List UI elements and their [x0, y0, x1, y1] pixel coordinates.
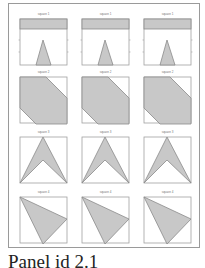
panel-1-3: square 1: [143, 12, 193, 65]
shape-grid: square 1square 1square 1square 2square 2…: [0, 0, 205, 250]
panel-label: square 2: [38, 70, 50, 74]
panel-3-3: square 3: [144, 130, 191, 183]
shape-polygon: [36, 40, 51, 65]
panel-label: square 2: [162, 70, 174, 74]
shape-polygon: [144, 77, 191, 124]
panel-1-2: square 1: [81, 12, 131, 65]
shape-band: [20, 19, 67, 29]
panel-label: square 4: [100, 190, 112, 194]
panel-2-2: square 2: [82, 70, 129, 124]
panel-label: square 3: [38, 130, 50, 134]
panel-3-1: square 3: [20, 130, 67, 183]
shape-polygon: [82, 137, 129, 183]
panel-label: square 1: [38, 12, 50, 16]
panel-2-3: square 2: [144, 70, 191, 124]
panel-1-1: square 1: [19, 12, 69, 65]
panel-label: square 1: [162, 12, 174, 16]
shape-polygon: [160, 40, 175, 65]
panel-label: square 3: [100, 130, 112, 134]
panel-4-1: square 4: [20, 190, 67, 244]
shape-polygon: [20, 77, 67, 124]
shape-polygon: [20, 137, 67, 183]
panel-4-2: square 4: [82, 190, 129, 244]
shape-polygon: [82, 77, 129, 124]
panel-label: square 3: [162, 130, 174, 134]
panel-4-3: square 4: [144, 190, 191, 244]
panel-label: square 1: [100, 12, 112, 16]
panel-3-2: square 3: [82, 130, 129, 183]
shape-polygon: [82, 197, 129, 244]
shape-polygon: [20, 197, 67, 244]
shape-polygon: [144, 137, 191, 183]
shape-band: [144, 19, 191, 29]
figure-caption: Panel id 2.1: [8, 252, 98, 268]
panel-2-1: square 2: [20, 70, 67, 124]
shape-band: [82, 19, 129, 29]
panel-label: square 4: [162, 190, 174, 194]
panel-label: square 2: [100, 70, 112, 74]
shape-polygon: [98, 40, 113, 65]
shape-polygon: [144, 197, 191, 244]
panel-label: square 4: [38, 190, 50, 194]
